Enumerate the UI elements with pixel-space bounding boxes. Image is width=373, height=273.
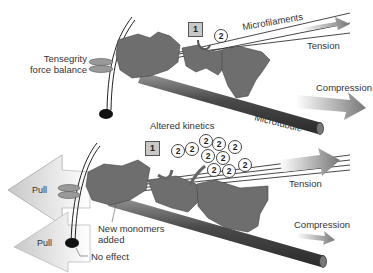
bottom-panel	[8, 143, 350, 272]
monomer-circle: 2	[199, 134, 213, 148]
monomer-circle: 2	[201, 149, 215, 163]
label-compression-top: Compression	[316, 82, 372, 93]
label-tension-bottom: Tension	[289, 178, 322, 189]
monomer-circle: 2	[212, 137, 226, 151]
label-pull-bottom: Pull	[37, 238, 52, 248]
label-new-monomers: New monomers	[98, 223, 165, 234]
label-pull-top: Pull	[32, 185, 47, 195]
monomer-circle: 2	[222, 164, 236, 178]
label-no-effect: No effect	[91, 251, 129, 262]
label-force-balance: force balance	[8, 64, 87, 75]
label-altered-kinetics: Altered kinetics	[150, 120, 214, 131]
monomer-circle: 2	[171, 144, 185, 158]
label-tension-top: Tension	[307, 40, 340, 51]
label-compression-bottom: Compression	[294, 219, 350, 230]
label-added: added	[98, 234, 124, 245]
monomer-circle: 2	[216, 151, 230, 165]
step-box-1-top: 1	[188, 22, 203, 37]
monomer-circle: 2	[228, 140, 242, 154]
monomer-circle: 2	[238, 158, 252, 172]
step-box-1-bottom: 1	[145, 141, 160, 156]
label-tensegrity: Tensegrity	[8, 53, 87, 64]
monomer-circle: 2	[207, 163, 221, 177]
monomer-circle: 2	[185, 142, 199, 156]
tensegrity-diagram: Tensegrity force balance Microfilaments …	[0, 0, 373, 273]
top-panel	[89, 13, 366, 135]
step-circle-2-top: 2	[214, 29, 228, 43]
